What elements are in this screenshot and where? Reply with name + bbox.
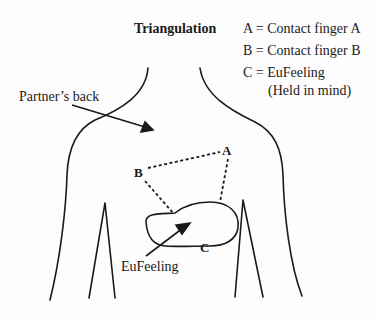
dash-b-to-a <box>148 152 220 168</box>
dash-a-to-c <box>220 159 228 202</box>
point-a-label: A <box>222 144 231 158</box>
partners-back-arrowhead <box>141 122 153 132</box>
legend-item-c: C = EuFeeling <box>243 65 325 81</box>
eufeeling-label: EuFeeling <box>121 259 179 275</box>
legend-item-a: A = Contact finger A <box>243 21 361 37</box>
legend-item-c-note: (Held in mind) <box>268 83 351 99</box>
right-torso-outline <box>200 68 302 296</box>
eufeeling-region <box>146 202 238 246</box>
right-arm-line <box>235 200 263 297</box>
triangulation-diagram: Triangulation A = Contact finger A B = C… <box>0 0 378 317</box>
dash-b-to-c <box>145 181 174 214</box>
point-b-label: B <box>134 166 143 180</box>
diagram-title: Triangulation <box>134 21 216 37</box>
legend-item-b: B = Contact finger B <box>243 43 361 59</box>
partners-back-label: Partner’s back <box>19 89 99 105</box>
point-c-label: C <box>200 241 209 255</box>
left-arm-line <box>89 203 115 298</box>
